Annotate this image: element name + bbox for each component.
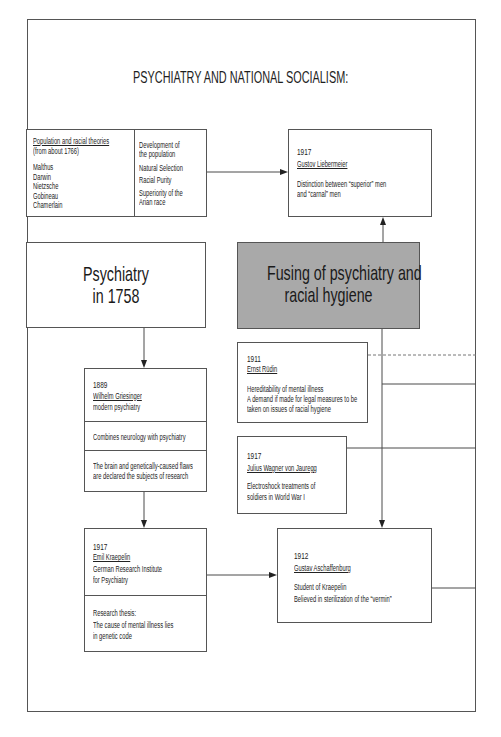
theories-box: Population and racial theories (from abo… [26, 129, 207, 217]
theorist-name: Chamerlain [33, 201, 109, 211]
theories-divider [134, 130, 135, 216]
liebermeier-description: Distinction between “superior” men and “… [297, 179, 386, 199]
institution-line: German Research Institute [93, 564, 162, 575]
description-line: Believed in sterilization of the “vermin… [294, 593, 392, 605]
aschaffenburg-year: 1912 [294, 549, 392, 562]
kraepelin-divider [85, 595, 206, 596]
kraepelin-year: 1917 [93, 541, 162, 552]
fusing-label: Fusing of psychiatry and racial hygiene [267, 262, 390, 306]
label-line: Psychiatry [55, 263, 176, 285]
griesinger-header: 1889 Wilhelm Griesinger modern psychiatr… [93, 379, 142, 414]
theories-subheading: (from about 1766) [33, 146, 109, 156]
concept-line: Racial Purity [139, 176, 183, 185]
concept-line: Arian race [139, 198, 183, 207]
description-line: and “carnal” men [297, 189, 386, 199]
rudin-year: 1911 [247, 353, 357, 364]
label-line: in 1758 [55, 285, 176, 307]
research-line: are declared the subjects of research [93, 471, 193, 481]
description-line: A demand if made for legal measures to b… [247, 394, 357, 404]
concept-line: the population [139, 150, 183, 159]
aschaffenburg-box: 1912 Gustav Aschaffenburg Student of Kra… [277, 528, 432, 623]
griesinger-role: modern psychiatry [93, 402, 142, 414]
kraepelin-name: Emil Kraepelin [93, 552, 162, 563]
griesinger-name: Wilhelm Griesinger [93, 391, 142, 403]
concept-item: Natural Selection [139, 164, 183, 173]
wagner-name: Julius Wagner von Jauregg [247, 462, 317, 474]
description-line: taken on issues of racial hygiene [247, 404, 357, 414]
liebermeier-name: Gustov Liebermeier [297, 158, 386, 170]
description-line: soldiers in World War I [247, 492, 317, 503]
label-line: racial hygiene [267, 284, 390, 306]
description-line: Hereditability of mental illness [247, 384, 357, 394]
thesis-line: The cause of mental illness lies [93, 620, 173, 632]
kraepelin-header: 1917 Emil Kraepelin German Research Inst… [93, 541, 162, 587]
griesinger-box: 1889 Wilhelm Griesinger modern psychiatr… [84, 368, 207, 492]
concept-item: Racial Purity [139, 176, 183, 185]
liebermeier-text: 1917 Gustov Liebermeier Distinction betw… [297, 146, 386, 199]
liebermeier-box: 1917 Gustov Liebermeier Distinction betw… [288, 129, 432, 217]
wagner-year: 1917 [247, 450, 317, 462]
fusing-box: Fusing of psychiatry and racial hygiene [237, 242, 420, 329]
kraepelin-thesis: Research thesis: The cause of mental ill… [93, 608, 173, 643]
concept-line: Natural Selection [139, 164, 183, 173]
wagner-description: Electroshock treatments of soldiers in W… [247, 481, 317, 503]
label-line: Fusing of psychiatry and [267, 262, 390, 284]
psychiatry-1758-label: Psychiatry in 1758 [55, 263, 176, 307]
institution-line: for Psychiatry [93, 575, 162, 586]
aschaffenburg-description: Student of Kraepelin Believed in sterili… [294, 581, 392, 605]
wagner-box: 1917 Julius Wagner von Jauregg Electrosh… [237, 436, 347, 514]
concept-item: Development of the population [139, 141, 183, 159]
kraepelin-box: 1917 Emil Kraepelin German Research Inst… [84, 528, 207, 652]
griesinger-divider [85, 450, 206, 451]
rudin-name: Ernst Rüdin [247, 364, 357, 375]
rudin-text: 1911 Ernst Rüdin Hereditability of menta… [247, 353, 357, 414]
theories-right-column: Development of the population Natural Se… [139, 141, 183, 207]
description-line: Student of Kraepelin [294, 581, 392, 593]
concept-item: Superiority of the Arian race [139, 189, 183, 207]
description-line: Electroshock treatments of [247, 481, 317, 492]
theories-left-column: Population and racial theories (from abo… [33, 136, 109, 211]
description-line: Distinction between “superior” men [297, 179, 386, 189]
griesinger-divider [85, 421, 206, 422]
griesinger-research: The brain and genetically-caused flaws a… [93, 461, 193, 481]
research-line: The brain and genetically-caused flaws [93, 461, 193, 471]
theorists-list: Malthus Darwin Nietzsche Gobineau Chamer… [33, 163, 109, 211]
thesis-line: in genetic code [93, 631, 173, 643]
page-title: PSYCHIATRY AND NATIONAL SOCIALISM: [133, 69, 348, 87]
rudin-description: Hereditability of mental illness A deman… [247, 384, 357, 414]
griesinger-year: 1889 [93, 379, 142, 391]
rudin-box: 1911 Ernst Rüdin Hereditability of menta… [237, 342, 368, 423]
thesis-line: Research thesis: [93, 608, 173, 620]
aschaffenburg-name: Gustav Aschaffenburg [294, 562, 392, 575]
griesinger-contribution: Combines neurology with psychiatry [93, 432, 186, 442]
liebermeier-year: 1917 [297, 146, 386, 158]
psychiatry-1758-box: Psychiatry in 1758 [26, 242, 206, 328]
aschaffenburg-text: 1912 Gustav Aschaffenburg Student of Kra… [294, 549, 392, 605]
wagner-text: 1917 Julius Wagner von Jauregg Electrosh… [247, 450, 317, 503]
theories-heading: Population and racial theories [33, 136, 109, 146]
